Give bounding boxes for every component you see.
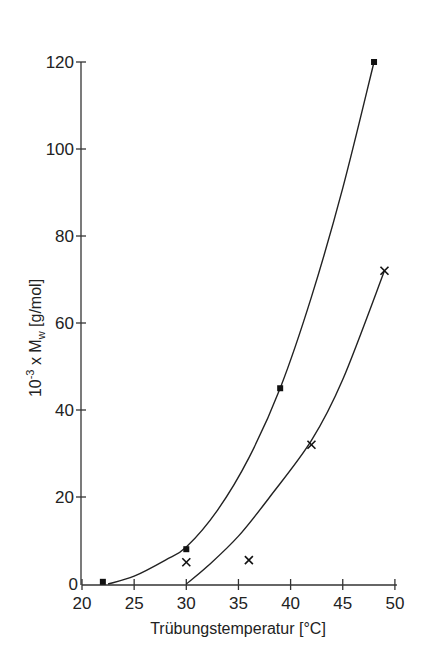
y-axis-label: 10-3 x Mw [g/mol] xyxy=(24,279,47,397)
y-tick-label: 100 xyxy=(46,140,74,159)
data-point-cross xyxy=(182,558,190,566)
x-tick-label: 20 xyxy=(73,594,92,613)
x-tick-label: 40 xyxy=(281,594,300,613)
data-point-square xyxy=(183,546,189,552)
y-tick-label: 120 xyxy=(46,53,74,72)
y-tick-label: 60 xyxy=(55,314,74,333)
data-point-square xyxy=(277,385,283,391)
axes xyxy=(76,62,397,590)
y-tick-label: 80 xyxy=(55,227,74,246)
x-tick-label: 35 xyxy=(229,594,248,613)
fit-curves xyxy=(108,62,384,584)
x-tick-label: 25 xyxy=(125,594,144,613)
data-point-cross xyxy=(245,556,253,564)
x-tick-label: 45 xyxy=(333,594,352,613)
fit-curve-1 xyxy=(108,62,374,584)
data-point-square xyxy=(100,579,106,585)
chart: 20253035404550 020406080100120 Trübungst… xyxy=(0,0,424,658)
x-tick-label: 50 xyxy=(385,594,404,613)
x-tick-labels: 20253035404550 xyxy=(73,594,405,613)
y-tick-label: 40 xyxy=(55,401,74,420)
x-tick-label: 30 xyxy=(177,594,196,613)
data-point-cross xyxy=(380,267,388,275)
x-axis-label: Trübungstemperatur [°C] xyxy=(150,620,326,637)
y-tick-label: 20 xyxy=(55,488,74,507)
data-point-square xyxy=(371,59,377,65)
data-markers xyxy=(100,59,389,585)
y-tick-labels: 020406080100120 xyxy=(46,53,78,594)
fit-curve-2 xyxy=(186,271,384,584)
y-tick-label: 0 xyxy=(69,575,78,594)
